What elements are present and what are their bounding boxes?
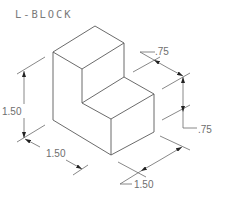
drawing-title: L-BLOCK [15, 8, 72, 21]
l-block-shape [53, 26, 154, 155]
dimension-label: .75 [155, 46, 169, 57]
dimension-label: 1.50 [46, 148, 66, 159]
dimension-height-overall: 1.50 [2, 57, 45, 142]
dimension-step-depth: .75 [133, 46, 190, 89]
drawing-canvas: L-BLOCK 1.50 [0, 0, 227, 201]
dimension-label: .75 [198, 124, 212, 135]
dimension-width-right: 1.50 [118, 136, 190, 190]
dimension-label: 1.50 [134, 179, 154, 190]
dimension-depth-left: 1.50 [25, 139, 88, 175]
dimension-label: 1.50 [2, 106, 22, 117]
dimension-step-height: .75 [162, 77, 212, 135]
isometric-drawing: 1.50 1.50 1.50 .75 [0, 0, 227, 201]
